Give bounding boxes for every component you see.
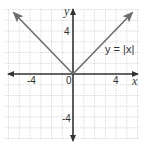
y-tick-neg4: -4 [62, 113, 71, 124]
x-tick-pos4: 4 [113, 75, 119, 86]
x-axis-label: x [131, 74, 138, 88]
absolute-value-graph: y x 0 -4 4 4 -4 y = |x| [0, 0, 144, 148]
left-branch [14, 13, 73, 74]
x-tick-neg4: -4 [27, 75, 36, 86]
equation-label: y = |x| [105, 43, 134, 55]
y-axis-label: y [63, 4, 70, 18]
origin-label: 0 [66, 75, 72, 86]
y-tick-pos4: 4 [64, 26, 70, 37]
